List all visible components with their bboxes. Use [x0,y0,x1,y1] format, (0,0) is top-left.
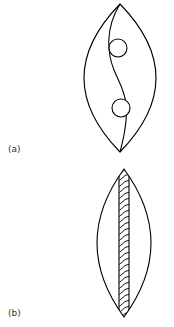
panel-b [97,169,151,317]
panel-label-b: (b) [8,308,21,318]
diagram-canvas [0,0,174,327]
lens-outline-a [84,4,156,152]
upper-circle [109,39,127,57]
panel-label-a: (a) [8,144,21,154]
s-curve-divider [109,4,127,152]
panel-a [84,4,156,152]
hatched-band [119,169,129,317]
lower-circle [112,99,130,117]
